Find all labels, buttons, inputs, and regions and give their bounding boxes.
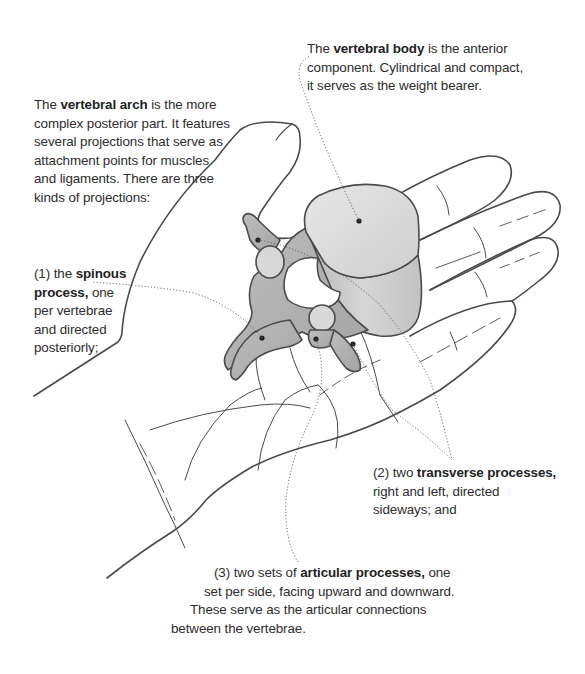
label-line: and directed [34, 321, 126, 340]
label-line: These serve as the articular connections [190, 601, 454, 620]
text-run: is the anterior [424, 41, 507, 56]
label-articular-processes: (3) two sets of articular processes, one… [171, 564, 454, 638]
label-line: component. Cylindrical and compact, [307, 59, 523, 78]
superior-articular-facet [256, 246, 284, 278]
text-run: (3) two sets of [214, 565, 300, 580]
label-line: between the vertebrae. [171, 620, 454, 639]
spinous-process [231, 320, 302, 380]
text-run: one [88, 285, 114, 300]
label-line: (2) two transverse processes, [373, 464, 556, 483]
label-line: kinds of projections: [34, 189, 230, 208]
label-line: The vertebral arch is the more [34, 96, 230, 115]
text-run: (2) two [373, 465, 417, 480]
label-vertebral-arch: The vertebral arch is the more complex p… [34, 96, 230, 208]
term-spinous: spinous [76, 266, 127, 281]
label-line: (3) two sets of articular processes, one [214, 564, 454, 583]
label-transverse-processes: (2) two transverse processes, right and … [373, 464, 556, 520]
term-transverse-processes: transverse processes, [417, 465, 556, 480]
label-spinous-process: (1) the spinous process, one per vertebr… [34, 265, 126, 358]
inferior-articular-facet [309, 305, 335, 331]
text-run: The [307, 41, 333, 56]
text-run: The [34, 97, 60, 112]
label-line: attachment points for muscles [34, 152, 230, 171]
label-line: it serves as the weight bearer. [307, 77, 523, 96]
term-process: process, [34, 285, 88, 300]
text-run: is the more [148, 97, 217, 112]
label-line: complex posterior part. It features [34, 115, 230, 134]
term-articular-processes: articular processes, [300, 565, 425, 580]
label-line: set per side, facing upward and downward… [204, 583, 454, 602]
label-line: several projections that serve as [34, 133, 230, 152]
label-line: right and left, directed [373, 483, 556, 502]
term-vertebral-arch: vertebral arch [60, 97, 147, 112]
label-vertebral-body: The vertebral body is the anterior compo… [307, 40, 523, 96]
label-line: per vertebrae [34, 302, 126, 321]
label-line: posteriorly; [34, 339, 126, 358]
text-run: (1) the [34, 266, 76, 281]
label-line: (1) the spinous [34, 265, 126, 284]
label-line: The vertebral body is the anterior [307, 40, 523, 59]
label-line: sideways; and [373, 501, 556, 520]
vertebra [224, 184, 421, 380]
label-line: process, one [34, 284, 126, 303]
term-vertebral-body: vertebral body [333, 41, 424, 56]
label-line: and ligaments. There are three [34, 170, 230, 189]
text-run: one [425, 565, 451, 580]
